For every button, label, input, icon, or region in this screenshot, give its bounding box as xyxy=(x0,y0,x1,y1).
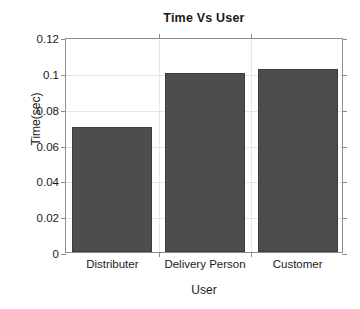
y-axis-tick xyxy=(61,254,66,255)
y-axis-tick-label: 0 xyxy=(53,248,59,260)
y-axis-tick-right xyxy=(342,182,347,183)
y-axis-tick-label: 0.02 xyxy=(37,212,59,224)
y-axis-tick xyxy=(61,218,66,219)
y-axis-tick-right xyxy=(342,75,347,76)
chart-title: Time Vs User xyxy=(65,11,343,25)
x-axis-tick-label: Distributer xyxy=(86,258,138,270)
y-axis-tick-right xyxy=(342,218,347,219)
x-axis-label: User xyxy=(65,283,343,297)
y-axis-tick xyxy=(61,39,66,40)
y-axis-tick-right xyxy=(342,39,347,40)
y-axis-tick-right xyxy=(342,254,347,255)
y-axis-tick xyxy=(61,75,66,76)
x-axis-tick xyxy=(251,252,252,257)
x-axis-tick-label: Delivery Person xyxy=(164,258,245,270)
x-axis-tick-top xyxy=(159,34,160,39)
vertical-gridline xyxy=(159,39,160,252)
bar xyxy=(165,73,245,252)
x-axis-tick-top xyxy=(251,34,252,39)
y-axis-tick xyxy=(61,111,66,112)
y-axis-tick-right xyxy=(342,147,347,148)
vertical-gridline xyxy=(251,39,252,252)
plot-area: 00.020.040.060.080.10.12 DistributerDeli… xyxy=(65,38,343,253)
bar-chart-figure: Time Vs User 00.020.040.060.080.10.12 Di… xyxy=(0,0,360,309)
y-axis-tick-right xyxy=(342,111,347,112)
x-axis-tick-label: Customer xyxy=(273,258,323,270)
y-axis-tick-label: 0.1 xyxy=(43,69,59,81)
bar xyxy=(258,69,338,252)
x-axis-tick xyxy=(159,252,160,257)
y-axis-tick-label: 0.12 xyxy=(37,33,59,45)
y-axis-tick xyxy=(61,147,66,148)
y-axis-label: Time(sec) xyxy=(29,59,43,179)
y-axis-tick xyxy=(61,182,66,183)
bar xyxy=(72,127,152,252)
